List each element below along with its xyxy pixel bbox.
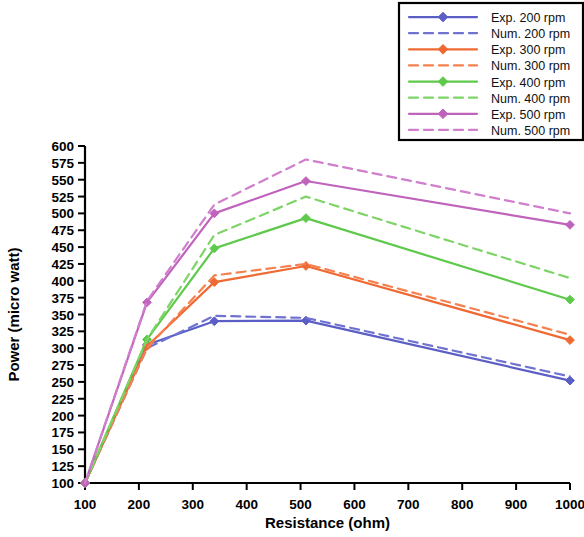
- series-marker-2: [566, 336, 575, 345]
- series-line-7: [85, 160, 570, 484]
- legend-label-2: Exp. 300 rpm: [491, 43, 565, 57]
- series-marker-6: [302, 177, 311, 186]
- y-tick-label: 525: [51, 190, 74, 205]
- x-tick-label: 200: [128, 497, 151, 512]
- y-tick-label: 425: [51, 257, 74, 272]
- legend-label-3: Num. 300 rpm: [491, 59, 570, 73]
- series-line-5: [85, 197, 570, 483]
- y-tick-label: 350: [51, 308, 74, 323]
- y-tick-label: 175: [51, 425, 74, 440]
- y-tick-label: 450: [51, 240, 74, 255]
- series-line-3: [85, 264, 570, 483]
- y-tick-label: 500: [51, 206, 74, 221]
- legend-label-6: Exp. 500 rpm: [491, 108, 565, 122]
- legend-label-7: Num. 500 rpm: [491, 124, 570, 138]
- legend-label-5: Num. 400 rpm: [491, 92, 570, 106]
- x-axis-title: Resistance (ohm): [265, 514, 390, 531]
- y-tick-label: 125: [51, 459, 74, 474]
- series-line-4: [85, 218, 570, 483]
- y-tick-label: 300: [51, 341, 74, 356]
- y-tick-label: 250: [51, 375, 74, 390]
- series-line-6: [85, 181, 570, 483]
- series-line-2: [85, 266, 570, 483]
- y-tick-label: 575: [51, 156, 74, 171]
- series-marker-2: [302, 262, 311, 271]
- y-tick-label: 200: [51, 409, 74, 424]
- x-tick-label: 100: [74, 497, 97, 512]
- y-axis-title: Power (micro watt): [5, 247, 22, 381]
- x-tick-label: 800: [451, 497, 474, 512]
- y-tick-label: 225: [51, 392, 74, 407]
- y-tick-label: 275: [51, 358, 74, 373]
- chart-figure: 1001251501752002252502753003253503754004…: [0, 0, 584, 537]
- legend-label-0: Exp. 200 rpm: [491, 11, 565, 25]
- series-marker-4: [566, 295, 575, 304]
- legend-label-4: Exp. 400 rpm: [491, 76, 565, 90]
- x-tick-label: 500: [289, 497, 312, 512]
- x-tick-label: 400: [235, 497, 258, 512]
- y-tick-label: 375: [51, 291, 74, 306]
- y-tick-label: 475: [51, 223, 74, 238]
- y-tick-label: 400: [51, 274, 74, 289]
- x-tick-label: 600: [343, 497, 366, 512]
- series-marker-4: [302, 214, 311, 223]
- power-vs-resistance-line-chart: 1001251501752002252502753003253503754004…: [0, 0, 584, 537]
- series-marker-6: [566, 220, 575, 229]
- x-tick-label: 300: [182, 497, 205, 512]
- y-tick-label: 100: [51, 476, 74, 491]
- y-tick-label: 600: [51, 139, 74, 154]
- y-tick-label: 150: [51, 442, 74, 457]
- x-tick-label: 900: [505, 497, 528, 512]
- y-tick-label: 325: [51, 324, 74, 339]
- x-tick-label: 700: [397, 497, 420, 512]
- legend-label-1: Num. 200 rpm: [491, 27, 570, 41]
- series-line-0: [85, 321, 570, 483]
- y-tick-label: 550: [51, 173, 74, 188]
- x-tick-label: 1000: [555, 497, 584, 512]
